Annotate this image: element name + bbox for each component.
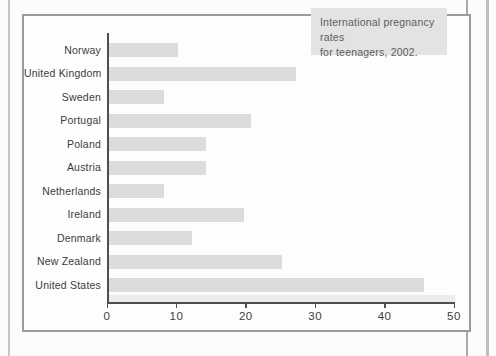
x-axis-tick	[454, 302, 456, 308]
x-axis-line	[107, 302, 455, 304]
x-tick-label: 0	[92, 310, 122, 322]
bar	[109, 161, 206, 175]
x-axis-tick	[176, 302, 178, 308]
x-tick-label: 50	[439, 310, 469, 322]
chart-title-line2: for teenagers, 2002.	[320, 45, 438, 60]
bar	[109, 43, 178, 57]
x-axis-tick	[315, 302, 317, 308]
x-tick-label: 40	[370, 310, 400, 322]
bar	[109, 208, 244, 222]
x-tick-label: 30	[300, 310, 330, 322]
bar	[109, 90, 165, 104]
x-tick-label: 20	[231, 310, 261, 322]
chart-title-box: International pregnancy rates for teenag…	[311, 8, 447, 55]
scanned-page: International pregnancy rates for teenag…	[0, 0, 496, 356]
category-label: Denmark	[24, 232, 101, 244]
axis-highlight-band	[108, 295, 455, 302]
x-axis-tick	[245, 302, 247, 308]
category-label: Sweden	[24, 91, 101, 103]
x-axis-tick	[107, 302, 109, 308]
category-label: United States	[24, 279, 101, 291]
chart-title-line1: International pregnancy rates	[320, 15, 438, 45]
category-label: Ireland	[24, 208, 101, 220]
bar	[109, 67, 296, 81]
x-tick-label: 10	[161, 310, 191, 322]
category-label: Austria	[24, 161, 101, 173]
category-label: Norway	[24, 44, 101, 56]
x-axis-tick	[384, 302, 386, 308]
bar	[109, 114, 251, 128]
category-label: Poland	[24, 138, 101, 150]
category-label: Portugal	[24, 114, 101, 126]
bar	[109, 231, 192, 245]
bar	[109, 255, 283, 269]
bar	[109, 184, 165, 198]
bar	[109, 137, 206, 151]
category-label: Netherlands	[24, 185, 101, 197]
bar	[109, 278, 425, 292]
category-label: United Kingdom	[24, 67, 101, 79]
category-label: New Zealand	[24, 255, 101, 267]
